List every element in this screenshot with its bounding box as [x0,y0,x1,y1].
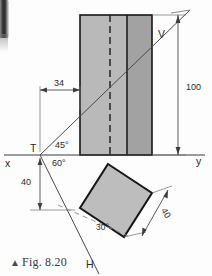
label-point-h: H [86,258,94,270]
dim34-arrow-left [40,88,47,93]
label-axis-x: x [5,157,10,169]
dim40s-extension-upper [152,186,172,193]
figure-caption: ▲Fig. 8.20 [10,255,67,270]
plan-square-outline [80,164,152,237]
label-point-t: T [30,142,36,154]
label-dimension-40-vertical: 40 [21,177,31,187]
label-axis-y: y [196,155,201,167]
dim40v-arrow-bottom [38,203,43,210]
dim34-arrow-right [73,88,80,93]
label-angle-30: 30° [96,222,109,232]
label-dimension-34: 34 [54,78,64,88]
figure-8-20: T V H x y 45° 60° 30° 34 100 40 40 ▲Fig.… [0,0,212,276]
caption-text: Fig. 8.20 [22,255,67,269]
caption-triangle-icon: ▲ [10,257,20,268]
elevation-band-dark [127,15,152,155]
dim100-arrow-top [176,15,181,23]
technical-drawing-canvas [0,0,212,276]
dim100-arrow-bottom [176,147,181,155]
elevation-rectangle [80,15,152,155]
label-point-v: V [158,28,165,40]
elevation-band-light [80,15,127,155]
label-angle-60: 60° [52,158,66,168]
label-dimension-100: 100 [186,82,201,92]
plan-square [80,164,152,237]
label-angle-45: 45° [55,140,69,150]
